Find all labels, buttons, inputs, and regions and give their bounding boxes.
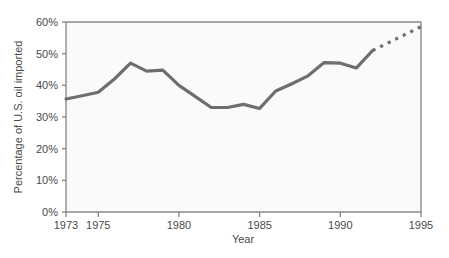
x-axis-tick-label: 1985 — [247, 219, 271, 231]
y-axis-ticks: 0%10%20%30%40%50%60% — [36, 16, 66, 218]
x-axis-tick-label: 1995 — [409, 219, 433, 231]
x-axis-ticks: 197319751980198519901995 — [54, 212, 433, 231]
oil-import-line-chart: 0%10%20%30%40%50%60% 1973197519801985199… — [0, 0, 449, 258]
x-axis-tick-label: 1990 — [328, 219, 352, 231]
y-axis-tick-label: 30% — [36, 111, 58, 123]
plot-area-background — [66, 22, 421, 212]
x-axis-tick-label: 1980 — [167, 219, 191, 231]
y-axis-tick-label: 20% — [36, 143, 58, 155]
x-axis-tick-label: 1975 — [86, 219, 110, 231]
y-axis-tick-label: 10% — [36, 174, 58, 186]
chart-canvas: 0%10%20%30%40%50%60% 1973197519801985199… — [0, 0, 449, 258]
y-axis-tick-label: 40% — [36, 79, 58, 91]
x-axis-tick-label: 1973 — [54, 219, 78, 231]
y-axis-tick-label: 60% — [36, 16, 58, 28]
y-axis-tick-label: 50% — [36, 48, 58, 60]
y-axis-title: Percentage of U.S. oil imported — [12, 41, 24, 194]
y-axis-tick-label: 0% — [42, 206, 58, 218]
x-axis-title: Year — [232, 233, 255, 245]
